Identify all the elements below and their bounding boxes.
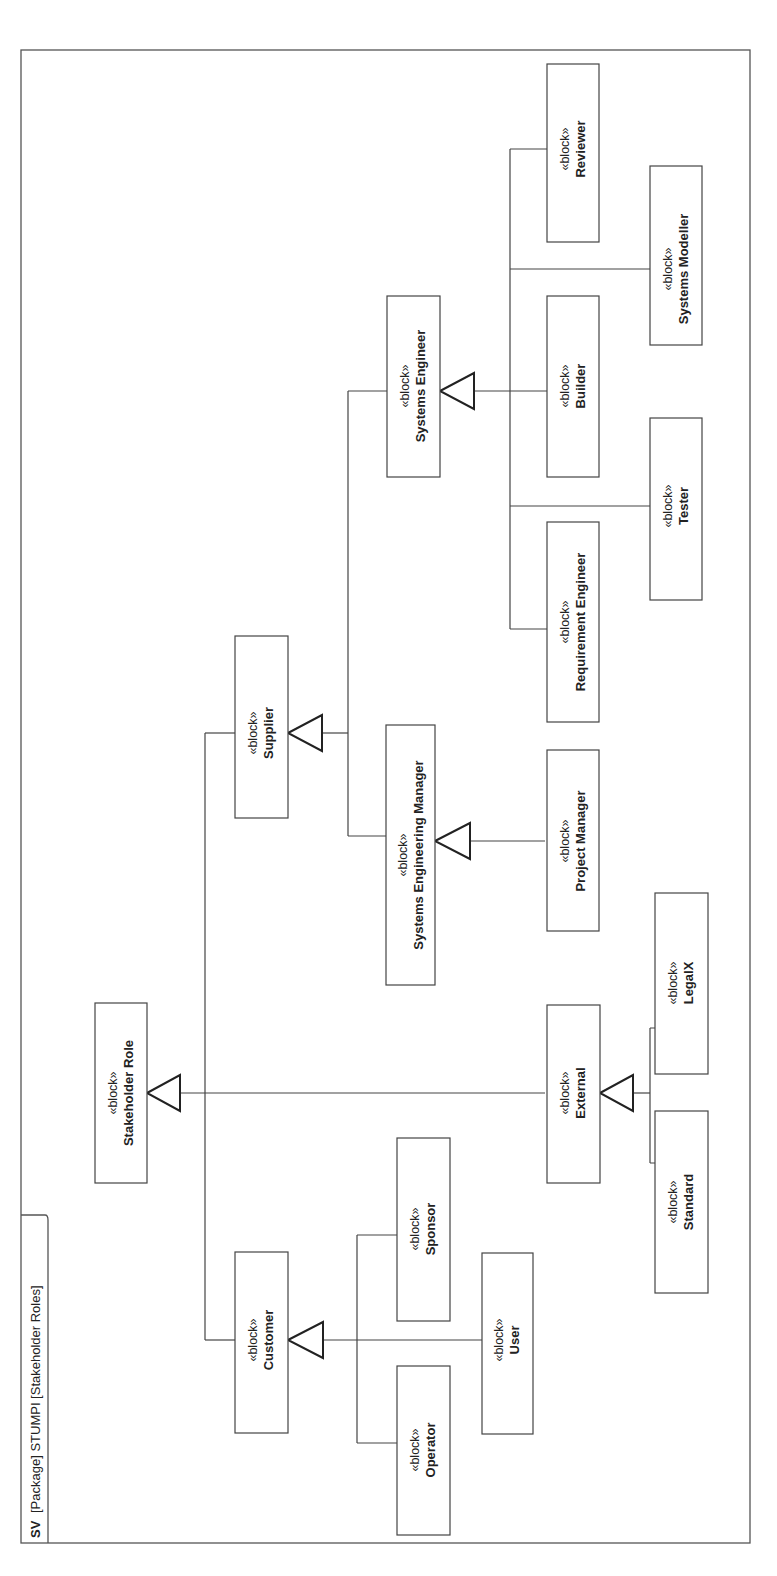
- block-sponsor[interactable]: «block» Sponsor: [397, 1138, 450, 1321]
- generalization-arrowhead-icon: [440, 373, 474, 409]
- block-stereotype: «block»: [666, 1180, 680, 1223]
- block-name: Systems Modeller: [676, 214, 691, 325]
- block-name: Standard: [681, 1174, 696, 1230]
- block-stakeholder-role[interactable]: «block» Stakeholder Role: [95, 1003, 147, 1183]
- generalization-stakeholder-role: [147, 733, 545, 1340]
- block-stereotype: «block»: [661, 247, 675, 290]
- block-stereotype: «block»: [558, 600, 572, 643]
- block-reviewer[interactable]: «block» Reviewer: [547, 64, 599, 242]
- block-name: User: [507, 1326, 522, 1355]
- block-systems-engineering-manager[interactable]: «block» Systems Engineering Manager: [386, 725, 435, 985]
- block-external[interactable]: «block» External: [547, 1005, 600, 1183]
- block-stereotype: «block»: [408, 1428, 422, 1471]
- block-user[interactable]: «block» User: [482, 1253, 533, 1434]
- block-stereotype: «block»: [666, 961, 680, 1004]
- block-legalx[interactable]: «block» LegalX: [655, 893, 708, 1074]
- block-stereotype: «block»: [661, 484, 675, 527]
- block-customer[interactable]: «block» Customer: [235, 1252, 288, 1433]
- block-requirement-engineer[interactable]: «block» Requirement Engineer: [547, 522, 599, 722]
- block-name: Builder: [573, 364, 588, 409]
- block-builder[interactable]: «block» Builder: [547, 296, 599, 477]
- block-name: Stakeholder Role: [121, 1040, 136, 1146]
- block-standard[interactable]: «block» Standard: [655, 1111, 708, 1293]
- frame-header: SV [Package] STUMPI [Stakeholder Roles]: [28, 1285, 43, 1538]
- block-stereotype: «block»: [408, 1207, 422, 1250]
- block-stereotype: «block»: [492, 1318, 506, 1361]
- block-systems-engineer[interactable]: «block» Systems Engineer: [387, 296, 440, 477]
- block-systems-modeller[interactable]: «block» Systems Modeller: [650, 166, 702, 345]
- generalization-supplier: [288, 391, 387, 836]
- block-operator[interactable]: «block» Operator: [397, 1366, 450, 1535]
- block-stereotype: «block»: [246, 711, 260, 754]
- block-stereotype: «block»: [246, 1318, 260, 1361]
- generalization-arrowhead-icon: [600, 1075, 633, 1111]
- block-name: Systems Engineering Manager: [411, 760, 426, 949]
- block-stereotype: «block»: [398, 364, 412, 407]
- block-name: Systems Engineer: [413, 330, 428, 443]
- block-name: LegalX: [681, 961, 696, 1004]
- block-name: Supplier: [261, 707, 276, 759]
- generalization-arrowhead-icon: [435, 823, 470, 859]
- block-name: Requirement Engineer: [573, 553, 588, 692]
- block-stereotype: «block»: [558, 1071, 572, 1114]
- generalization-systems-engineering-manager: [435, 823, 545, 859]
- block-name: Customer: [261, 1310, 276, 1371]
- block-name: External: [573, 1067, 588, 1118]
- block-tester[interactable]: «block» Tester: [650, 418, 702, 600]
- block-stereotype: «block»: [106, 1071, 120, 1114]
- block-stereotype: «block»: [558, 819, 572, 862]
- block-name: Reviewer: [573, 120, 588, 177]
- block-name: Operator: [423, 1423, 438, 1478]
- block-definition-diagram: SV [Package] STUMPI [Stakeholder Roles]: [0, 0, 777, 1576]
- frame-kind: SV: [28, 1520, 43, 1538]
- block-name: Project Manager: [573, 790, 588, 891]
- generalization-arrowhead-icon: [147, 1075, 180, 1111]
- block-name: Tester: [676, 487, 691, 525]
- generalization-customer: [288, 1235, 482, 1443]
- block-stereotype: «block»: [558, 127, 572, 170]
- generalization-arrowhead-icon: [288, 715, 322, 751]
- block-stereotype: «block»: [558, 364, 572, 407]
- block-stereotype: «block»: [396, 833, 410, 876]
- frame-title: [Package] STUMPI [Stakeholder Roles]: [28, 1285, 43, 1513]
- generalization-systems-engineer: [440, 149, 650, 629]
- svg-text:SV [Package] STUMPI [Sta: SV [Package] STUMPI [Stakeholder Roles]: [28, 1285, 43, 1538]
- block-project-manager[interactable]: «block» Project Manager: [547, 750, 599, 931]
- block-name: Sponsor: [423, 1203, 438, 1256]
- generalization-arrowhead-icon: [288, 1322, 323, 1358]
- block-supplier[interactable]: «block» Supplier: [235, 636, 288, 818]
